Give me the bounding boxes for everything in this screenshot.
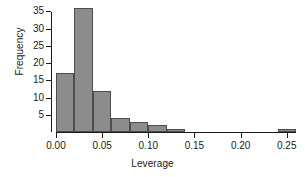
x-tick-mark: [194, 133, 195, 138]
x-tick-mark: [241, 133, 242, 138]
x-tick-label: 0.20: [221, 141, 261, 151]
histogram-bar: [93, 91, 111, 132]
x-tick-mark: [287, 133, 288, 138]
x-tick-label: 0.25: [267, 141, 305, 151]
y-tick-label: 20: [14, 58, 44, 68]
y-tick-label: 15: [14, 75, 44, 85]
x-tick-label: 0.15: [174, 141, 214, 151]
y-axis-line: [51, 12, 52, 132]
histogram-bar: [130, 122, 148, 132]
plot-area: [56, 8, 296, 132]
histogram-chart: Frequency 5101520253035 0.000.050.100.15…: [0, 0, 305, 177]
x-tick-label: 0.05: [82, 141, 122, 151]
y-tick-label: 25: [14, 41, 44, 51]
x-tick-mark: [148, 133, 149, 138]
x-axis-line: [56, 132, 296, 133]
x-axis-label: Leverage: [0, 158, 305, 169]
x-tick-label: 0.00: [36, 141, 76, 151]
y-tick-label: 35: [14, 6, 44, 16]
histogram-bar: [74, 8, 92, 132]
x-tick-label: 0.10: [128, 141, 168, 151]
histogram-bar: [56, 73, 74, 132]
y-tick-label: 10: [14, 93, 44, 103]
histogram-bar: [148, 125, 166, 132]
x-tick-mark: [102, 133, 103, 138]
y-tick-label: 30: [14, 24, 44, 34]
y-tick-label: 5: [14, 110, 44, 120]
histogram-bar: [111, 118, 129, 132]
x-tick-mark: [56, 133, 57, 138]
